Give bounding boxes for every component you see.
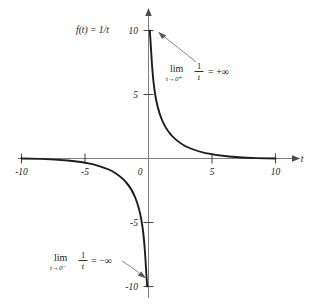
upper-limit-result: = +∞ — [208, 66, 229, 77]
x-tick-label-zero: 0 — [138, 167, 143, 177]
y-tick-label-10: 10 — [129, 26, 139, 36]
upper-annotation-leader — [158, 32, 196, 62]
upper-leader-line — [161, 34, 196, 62]
lower-fraction-numerator: 1 — [81, 250, 85, 260]
y-tick-label-neg10: -10 — [125, 282, 138, 292]
x-tick-label-5: 5 — [210, 167, 215, 177]
lower-annotation-leader — [122, 261, 146, 279]
upper-limit-annotation: lim t→0⁺ 1 t = +∞ — [166, 61, 229, 83]
lower-lim-subscript: t→0⁻ — [50, 264, 66, 272]
x-tick-label-neg10: -10 — [15, 167, 28, 177]
upper-lim-operator: lim — [170, 63, 184, 74]
x-axis-name-label: t — [301, 154, 304, 164]
x-tick-label-neg5: -5 — [81, 167, 89, 177]
upper-fraction-denominator: t — [198, 72, 201, 82]
x-tick-label-10: 10 — [271, 167, 281, 177]
lower-limit-result: = −∞ — [91, 255, 112, 266]
curve-right-branch — [150, 31, 276, 159]
y-tick-label-neg5: -5 — [130, 218, 138, 228]
y-tick-label-5: 5 — [133, 90, 138, 100]
lower-lim-operator: lim — [54, 252, 68, 263]
x-axis-arrowhead — [292, 155, 300, 161]
curve-left-branch — [22, 159, 148, 287]
upper-lim-subscript: t→0⁺ — [166, 75, 182, 83]
upper-fraction-numerator: 1 — [197, 61, 201, 71]
y-axis-arrowhead — [145, 8, 151, 16]
lower-fraction-denominator: t — [82, 261, 85, 271]
graph-canvas: -10 -5 0 5 10 10 5 -5 -10 t f(t) = 1/t l… — [0, 0, 311, 305]
function-graph-figure: -10 -5 0 5 10 10 5 -5 -10 t f(t) = 1/t l… — [0, 0, 311, 305]
function-title-label: f(t) = 1/t — [76, 25, 109, 36]
lower-limit-annotation: lim t→0⁻ 1 t = −∞ — [50, 250, 112, 272]
